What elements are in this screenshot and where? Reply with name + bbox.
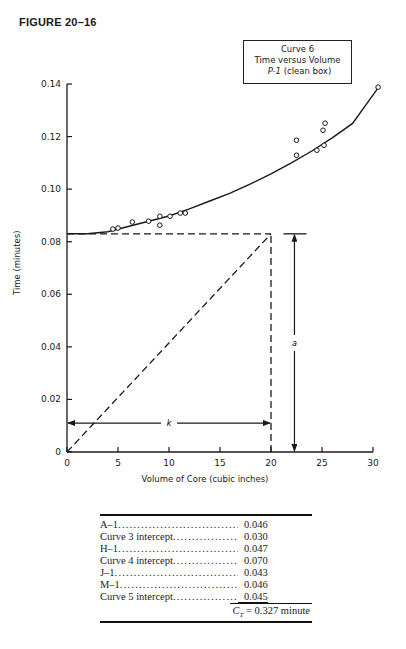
row-value: 0.030 (238, 531, 268, 543)
data-point (111, 227, 116, 232)
fitted-curve (67, 88, 378, 234)
y-tick-label: 0.04 (41, 342, 61, 352)
fitted-curve-path (67, 88, 378, 234)
data-points (111, 85, 381, 232)
data-point (116, 226, 121, 231)
row-name: H–1................................. (100, 543, 238, 555)
total-symbol: C (232, 605, 239, 616)
y-tick-label: 0.12 (41, 132, 61, 142)
scatter-plot: ak 00.020.040.060.080.100.120.1405101520… (0, 0, 406, 500)
row-name: A–1................................. (100, 519, 238, 531)
table-row: Curve 5 intercept.......................… (100, 591, 312, 603)
data-point (294, 153, 299, 158)
row-name: M–1................................. (100, 579, 238, 591)
x-tick-label: 10 (163, 458, 175, 468)
x-tick-label: 30 (367, 458, 379, 468)
table-top-rule (100, 514, 312, 516)
a-label: a (292, 339, 297, 348)
x-tick-label: 0 (64, 458, 70, 468)
table-row: A–1.................................0.04… (100, 519, 312, 531)
data-point (322, 143, 327, 148)
row-value: 0.043 (238, 567, 268, 579)
row-value: 0.046 (238, 579, 268, 591)
x-axis-title: Volume of Core (cubic inches) (142, 474, 269, 484)
y-tick-label: 0.14 (41, 79, 61, 89)
summary-table: A–1.................................0.04… (100, 514, 312, 623)
data-point (294, 138, 299, 143)
row-name: Curve 5 intercept.......................… (100, 591, 238, 603)
data-point (168, 214, 173, 219)
data-point (315, 148, 320, 153)
table-row: J–1.................................0.04… (100, 567, 312, 579)
y-tick-label: 0 (55, 447, 61, 457)
total-value: = 0.327 minute (243, 605, 310, 616)
x-tick-label: 5 (115, 458, 121, 468)
x-tick-label: 15 (214, 458, 225, 468)
y-axis-title: Time (minutes) (12, 230, 22, 296)
row-value: 0.046 (238, 519, 268, 531)
y-tick-label: 0.10 (41, 184, 61, 194)
y-tick-label: 0.02 (41, 394, 61, 404)
data-point (376, 85, 381, 90)
row-name: Curve 3 intercept.......................… (100, 531, 238, 543)
row-name: Curve 4 intercept.......................… (100, 555, 238, 567)
x-tick-label: 25 (316, 458, 327, 468)
y-tick-label: 0.08 (41, 237, 61, 247)
table-total: CT = 0.327 minute (100, 604, 312, 617)
table-row: M–1.................................0.04… (100, 579, 312, 591)
data-point (158, 214, 163, 219)
construction-lines: ak (67, 234, 306, 452)
data-point (130, 220, 135, 225)
table-row: H–1.................................0.04… (100, 543, 312, 555)
data-point (178, 211, 183, 216)
table-row: Curve 3 intercept.......................… (100, 531, 312, 543)
data-point (158, 223, 163, 228)
data-point (323, 121, 328, 126)
x-tick-label: 20 (265, 458, 277, 468)
data-point (321, 128, 326, 133)
data-point (183, 211, 188, 216)
data-point (146, 219, 151, 224)
row-value: 0.045 (238, 591, 268, 603)
axes (67, 84, 373, 452)
row-name: J–1................................. (100, 567, 238, 579)
table-row: Curve 4 intercept.......................… (100, 555, 312, 567)
row-value: 0.047 (238, 543, 268, 555)
k-label: k (167, 419, 172, 428)
row-value: 0.070 (238, 555, 268, 567)
y-tick-label: 0.06 (41, 289, 61, 299)
table-rows: A–1.................................0.04… (100, 519, 312, 603)
table-bottom-rule (100, 621, 312, 623)
